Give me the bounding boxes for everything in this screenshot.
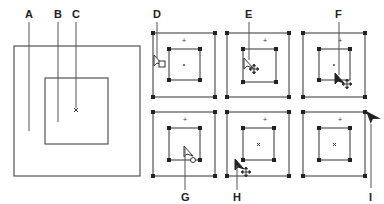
square-icon — [159, 61, 165, 67]
label-a: A — [25, 8, 33, 20]
label-c: C — [72, 8, 80, 20]
diagram-canvas: A B C + D + E + — [0, 0, 384, 204]
label-f: F — [335, 8, 342, 20]
center-point-icon — [74, 108, 78, 112]
svg-text:+: + — [182, 37, 186, 44]
cursor-d — [154, 55, 165, 67]
svg-text:+: + — [183, 116, 187, 123]
panel-e: + — [225, 31, 291, 99]
panel-f: + — [301, 31, 367, 99]
rotate-icon — [191, 158, 196, 163]
main-figure: A B C — [14, 8, 140, 176]
panel-g: + — [151, 110, 217, 178]
label-b: B — [54, 8, 62, 20]
label-i: I — [369, 191, 372, 203]
svg-text:+: + — [263, 116, 267, 123]
cursor-i — [367, 109, 379, 122]
label-h: H — [233, 191, 241, 203]
label-d: D — [153, 8, 161, 20]
cursor-f — [335, 73, 352, 89]
label-e: E — [245, 8, 252, 20]
panel-i: + — [301, 110, 367, 178]
svg-text:+: + — [263, 37, 267, 44]
label-g: G — [181, 191, 190, 203]
cursor-e — [244, 58, 259, 74]
svg-text:+: + — [338, 116, 342, 123]
